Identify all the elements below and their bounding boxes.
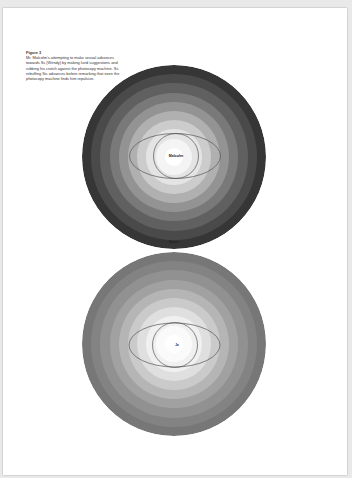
figure-bottom-concentric-circles: Ja — [82, 252, 266, 436]
center-label-bottom: Ja — [175, 343, 178, 347]
center-label-top: Malcolm — [169, 154, 183, 158]
figure-top-concentric-circles: Malcolm Space — [82, 65, 266, 249]
bottom-label-top: Space — [169, 240, 180, 244]
eye-diagram-bottom — [82, 252, 266, 436]
